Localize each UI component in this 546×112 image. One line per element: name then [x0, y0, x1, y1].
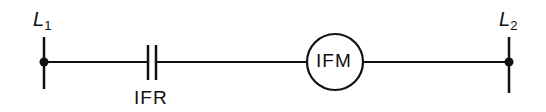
- right-rail-subscript: 2: [510, 18, 517, 33]
- ladder-rung-diagram: [0, 0, 546, 112]
- coil-label: IFM: [316, 50, 352, 72]
- left-rail-subscript: 1: [44, 18, 51, 33]
- right-rail-node: [505, 58, 514, 67]
- left-rail-letter: L: [33, 8, 44, 30]
- normally-open-contact: [148, 45, 156, 80]
- right-rail-letter: L: [499, 8, 510, 30]
- contact-label: IFR: [134, 87, 168, 109]
- right-rail-label: L2: [499, 8, 517, 33]
- left-rail-label: L1: [33, 8, 51, 33]
